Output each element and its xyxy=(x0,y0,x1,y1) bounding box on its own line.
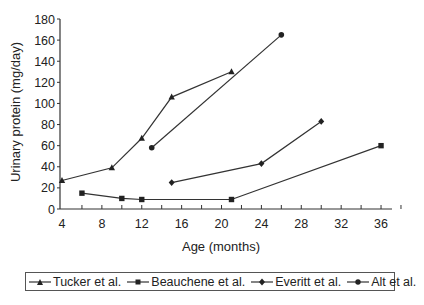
data-point-square xyxy=(79,190,84,195)
x-tick-label: 28 xyxy=(294,217,308,231)
series-group xyxy=(59,32,384,202)
diamond-marker-icon xyxy=(251,278,273,286)
data-point-square xyxy=(139,197,144,202)
legend: Tucker et al. Beauchene et al. Everitt e… xyxy=(25,272,395,291)
legend-item-beauchene: Beauchene et al. xyxy=(127,275,245,289)
y-tick-label: 140 xyxy=(34,55,55,69)
x-tick-label: 4 xyxy=(59,217,66,231)
x-axis-label: Age (months) xyxy=(182,239,260,254)
legend-label: Beauchene et al. xyxy=(151,275,245,289)
data-point-diamond xyxy=(258,160,264,167)
x-tick-label: 12 xyxy=(135,217,149,231)
legend-item-tucker: Tucker et al. xyxy=(29,275,121,289)
series-beauchene xyxy=(79,143,384,202)
data-point-diamond xyxy=(318,118,324,125)
y-tick-label: 160 xyxy=(34,34,55,48)
x-tick-label: 16 xyxy=(175,217,189,231)
legend-label: Everitt et al. xyxy=(275,275,341,289)
data-point-circle xyxy=(149,145,155,151)
data-point-triangle xyxy=(228,68,234,74)
x-tick-label: 32 xyxy=(334,217,348,231)
y-tick-label: 180 xyxy=(34,13,55,27)
line-chart: 0204060801001201401601804812162024283236… xyxy=(0,0,424,270)
data-point-circle xyxy=(279,32,285,38)
legend-item-alt: Alt et al. xyxy=(347,275,416,289)
series-line xyxy=(62,72,231,181)
data-point-square xyxy=(119,196,124,201)
data-point-square xyxy=(229,197,234,202)
x-tick-label: 36 xyxy=(374,217,388,231)
square-marker-icon xyxy=(127,278,149,286)
data-point-square xyxy=(378,143,383,148)
x-tick-label: 8 xyxy=(98,217,105,231)
series-line xyxy=(172,121,322,182)
y-tick-label: 40 xyxy=(41,160,55,174)
y-tick-label: 80 xyxy=(41,118,55,132)
legend-item-everitt: Everitt et al. xyxy=(251,275,341,289)
legend-label: Alt et al. xyxy=(371,275,416,289)
series-line xyxy=(152,35,282,148)
legend-label: Tucker et al. xyxy=(53,275,121,289)
series-alt xyxy=(149,32,284,151)
y-axis-label: Urinary protein (mg/day) xyxy=(8,42,23,182)
axes: 0204060801001201401601804812162024283236 xyxy=(34,13,401,232)
y-tick-label: 0 xyxy=(48,203,55,217)
x-tick-label: 24 xyxy=(254,217,268,231)
data-point-diamond xyxy=(169,179,175,186)
series-tucker xyxy=(59,68,235,183)
circle-marker-icon xyxy=(347,278,369,286)
series-everitt xyxy=(169,118,325,186)
x-tick-label: 20 xyxy=(215,217,229,231)
y-tick-label: 20 xyxy=(41,181,55,195)
y-tick-label: 60 xyxy=(41,139,55,153)
triangle-marker-icon xyxy=(29,278,51,286)
y-tick-label: 100 xyxy=(34,97,55,111)
y-tick-label: 120 xyxy=(34,76,55,90)
